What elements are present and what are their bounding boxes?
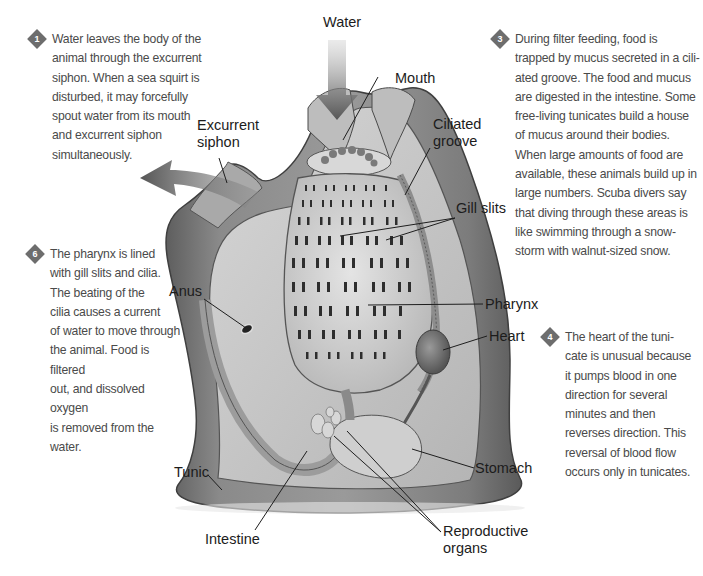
label-mouth: Mouth bbox=[395, 70, 435, 87]
label-water: Water bbox=[323, 14, 361, 31]
label-intestine: Intestine bbox=[205, 531, 260, 548]
callout-3: 3 During filter feeding, food is trapped… bbox=[515, 30, 703, 262]
callout-4: 4 The heart of the tuni- cate is unusual… bbox=[565, 328, 703, 482]
label-gill-slits: Gill slits bbox=[456, 200, 506, 217]
label-excurrent-siphon: Excurrent siphon bbox=[197, 117, 259, 151]
label-ciliated-groove: Ciliated groove bbox=[433, 116, 481, 150]
label-stomach: Stomach bbox=[475, 460, 532, 477]
callout-6: 6 The pharynx is lined with gill slits a… bbox=[50, 245, 180, 457]
callout-1: 1 Water leaves the body of the animal th… bbox=[52, 30, 202, 165]
label-tunic: Tunic bbox=[174, 464, 209, 481]
heart bbox=[416, 330, 450, 374]
label-heart: Heart bbox=[489, 328, 524, 345]
label-reproductive-organs: Reproductive organs bbox=[443, 523, 528, 557]
label-pharynx: Pharynx bbox=[485, 296, 538, 313]
